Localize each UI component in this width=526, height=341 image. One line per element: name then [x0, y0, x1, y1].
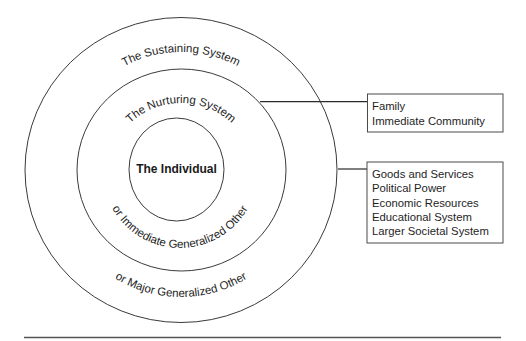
individual-ring: The Individual	[129, 118, 224, 221]
sustaining-item-educational-system: Educational System	[372, 211, 472, 223]
major-generalized-other-label: or Major Generalized Other	[114, 270, 249, 299]
nurturing-components-box: Family Immediate Community	[368, 94, 504, 132]
sustaining-system-label: The Sustaining System	[120, 42, 243, 68]
major-generalized-other-label-path: or Major Generalized Other	[114, 270, 249, 299]
nurturing-system-label-path: The Nurturing System	[124, 93, 239, 125]
immediate-generalized-other-label-path: or Immediate Generalized Other	[110, 203, 249, 250]
sustaining-system-label-path: The Sustaining System	[120, 42, 243, 68]
nurturing-system-label: The Nurturing System	[124, 93, 239, 125]
nurturing-item-immediate-community: Immediate Community	[372, 115, 485, 127]
immediate-generalized-other-label: or Immediate Generalized Other	[110, 203, 249, 250]
sustaining-item-economic-resources: Economic Resources	[372, 197, 479, 209]
sustaining-item-larger-societal-system: Larger Societal System	[372, 225, 489, 237]
nurturing-item-family: Family	[372, 100, 406, 112]
sustaining-item-political-power: Political Power	[372, 182, 446, 194]
sustaining-components-box: Goods and Services Political Power Econo…	[367, 162, 503, 243]
dual-perspective-diagram: The Sustaining System or Major Generaliz…	[0, 0, 526, 341]
individual-label: The Individual	[136, 162, 217, 176]
sustaining-item-goods-and-services: Goods and Services	[372, 168, 474, 180]
